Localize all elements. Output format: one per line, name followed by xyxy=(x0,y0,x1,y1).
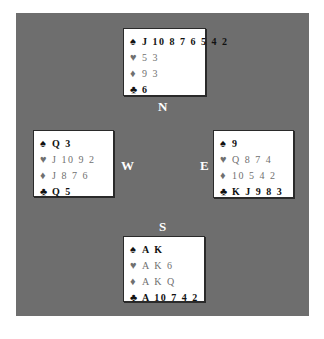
east-diamonds: ♦10 5 4 2 xyxy=(220,167,293,183)
diamond-icon: ♦ xyxy=(40,167,52,183)
club-icon: ♣ xyxy=(130,289,142,305)
east-spades: ♠9 xyxy=(220,135,293,151)
card-table: ♠J 10 8 7 6 5 4 2 ♥5 3 ♦9 3 ♣6 N ♠Q 3 ♥J… xyxy=(16,13,309,316)
club-icon: ♣ xyxy=(130,81,142,97)
south-spades: ♠A K xyxy=(130,241,204,257)
heart-icon: ♥ xyxy=(40,151,52,167)
club-icon: ♣ xyxy=(220,183,232,199)
west-spades: ♠Q 3 xyxy=(40,135,113,151)
north-spades: ♠J 10 8 7 6 5 4 2 xyxy=(130,33,205,49)
diamond-icon: ♦ xyxy=(130,65,142,81)
south-hand: ♠A K ♥A K 6 ♦A K Q ♣A 10 7 4 2 xyxy=(123,236,205,302)
spade-icon: ♠ xyxy=(130,33,142,49)
heart-icon: ♥ xyxy=(130,49,142,65)
west-label: W xyxy=(121,158,134,174)
north-clubs: ♣6 xyxy=(130,81,205,97)
spade-icon: ♠ xyxy=(40,135,52,151)
north-diamonds: ♦9 3 xyxy=(130,65,205,81)
east-clubs: ♣K J 9 8 3 xyxy=(220,183,293,199)
east-label: E xyxy=(200,158,209,174)
diamond-icon: ♦ xyxy=(130,273,142,289)
spade-icon: ♠ xyxy=(130,241,142,257)
west-diamonds: ♦J 8 7 6 xyxy=(40,167,113,183)
diamond-icon: ♦ xyxy=(220,167,232,183)
north-label: N xyxy=(158,99,167,115)
heart-icon: ♥ xyxy=(130,257,142,273)
heart-icon: ♥ xyxy=(220,151,232,167)
spade-icon: ♠ xyxy=(220,135,232,151)
south-diamonds: ♦A K Q xyxy=(130,273,204,289)
west-hearts: ♥J 10 9 2 xyxy=(40,151,113,167)
south-label: S xyxy=(159,219,166,235)
north-hearts: ♥5 3 xyxy=(130,49,205,65)
club-icon: ♣ xyxy=(40,183,52,199)
west-hand: ♠Q 3 ♥J 10 9 2 ♦J 8 7 6 ♣Q 5 xyxy=(33,130,114,197)
east-hand: ♠9 ♥Q 8 7 4 ♦10 5 4 2 ♣K J 9 8 3 xyxy=(213,130,294,198)
west-clubs: ♣Q 5 xyxy=(40,183,113,199)
north-hand: ♠J 10 8 7 6 5 4 2 ♥5 3 ♦9 3 ♣6 xyxy=(123,28,206,96)
south-hearts: ♥A K 6 xyxy=(130,257,204,273)
east-hearts: ♥Q 8 7 4 xyxy=(220,151,293,167)
south-clubs: ♣A 10 7 4 2 xyxy=(130,289,204,305)
